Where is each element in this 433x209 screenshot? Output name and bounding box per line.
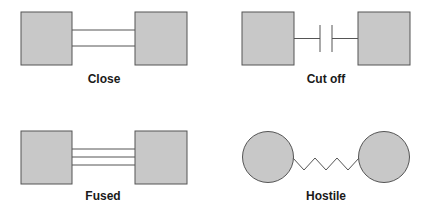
node-right-square	[135, 12, 187, 65]
node-left-square	[21, 131, 72, 184]
relationship-diagrams	[0, 0, 433, 209]
label-hostile: Hostile	[276, 189, 376, 203]
diagram-close	[21, 12, 187, 65]
node-right-square	[135, 131, 187, 184]
label-fused: Fused	[53, 189, 153, 203]
label-cut-off: Cut off	[276, 72, 376, 86]
label-close: Close	[54, 72, 154, 86]
zigzag-connector	[293, 158, 359, 170]
node-left-square	[21, 12, 72, 65]
node-left-square	[242, 12, 294, 65]
diagram-hostile	[243, 132, 410, 183]
node-right-square	[358, 12, 410, 65]
node-right-circle	[359, 132, 410, 183]
diagram-cut-off	[242, 12, 410, 65]
diagram-fused	[21, 131, 187, 184]
node-left-circle	[243, 132, 294, 183]
